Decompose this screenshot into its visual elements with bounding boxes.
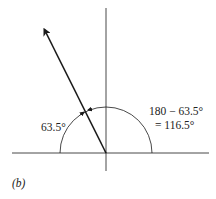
supplement-equation-line1: 180 − 63.5°	[149, 105, 204, 117]
supplement-equation-line2: = 116.5°	[155, 119, 195, 131]
vector-arrow	[44, 30, 106, 154]
panel-label: (b)	[12, 177, 26, 190]
angle-diagram: 63.5° 180 − 63.5° = 116.5° (b)	[0, 0, 216, 199]
angle-marker-right	[88, 109, 92, 110]
angle-marker-left	[80, 112, 84, 115]
reference-angle-label: 63.5°	[41, 121, 66, 133]
